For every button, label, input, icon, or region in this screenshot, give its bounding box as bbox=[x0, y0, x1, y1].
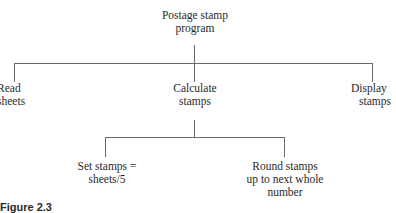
figure-caption: Figure 2.3 bbox=[0, 201, 52, 213]
node-label-line: Display bbox=[351, 82, 396, 95]
connector-root-down bbox=[194, 45, 195, 64]
connector-set-stamps bbox=[105, 137, 106, 157]
connector-level2-bar bbox=[105, 137, 285, 138]
node-label-line: program bbox=[145, 22, 245, 35]
node-label-line: Read bbox=[0, 82, 37, 95]
connector-calculate-stamps bbox=[194, 63, 195, 82]
node-label-line: up to next whole bbox=[230, 173, 340, 186]
node-label-line: stamps bbox=[155, 95, 235, 108]
node-label-line: stamps bbox=[351, 95, 396, 108]
connector-display-stamps bbox=[372, 63, 373, 82]
node-label-line: Round stamps bbox=[230, 160, 340, 173]
node-label-line: Set stamps = bbox=[57, 160, 157, 173]
node-label-line: Calculate bbox=[155, 82, 235, 95]
caption-label: Figure 2.3 bbox=[0, 201, 52, 213]
node-calculate-stamps: Calculate stamps bbox=[155, 82, 235, 108]
connector-round-stamps bbox=[284, 137, 285, 157]
node-round-stamps: Round stamps up to next whole number bbox=[230, 160, 340, 199]
node-postage-stamp-program: Postage stamp program bbox=[145, 9, 245, 35]
connector-calculate-down bbox=[194, 120, 195, 138]
node-label-line: sheets bbox=[0, 95, 37, 108]
connector-read-sheets bbox=[14, 63, 15, 82]
node-read-sheets: Read sheets bbox=[0, 82, 37, 108]
node-display-stamps: Display stamps bbox=[351, 82, 396, 108]
node-label-line: Postage stamp bbox=[145, 9, 245, 22]
node-set-stamps: Set stamps = sheets/5 bbox=[57, 160, 157, 186]
node-label-line: sheets/5 bbox=[57, 173, 157, 186]
node-label-line: number bbox=[230, 186, 340, 199]
